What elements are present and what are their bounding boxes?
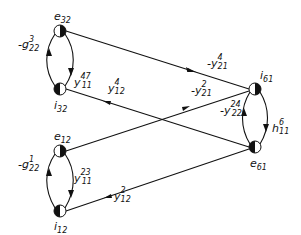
gain-y11-47: y4711 xyxy=(73,72,92,90)
label-i32: i32 xyxy=(54,99,67,114)
loop-i61-e61 xyxy=(241,92,269,144)
gain-g22-3: -g322 xyxy=(18,35,39,53)
gain-y12-2: y212 xyxy=(113,186,131,204)
label-i61: i61 xyxy=(260,69,273,84)
gain-y11-23: y2311 xyxy=(73,168,92,186)
label-e32: e32 xyxy=(54,10,71,25)
node-e32 xyxy=(54,25,66,37)
gain-y12-4: y412 xyxy=(107,78,125,96)
node-i12 xyxy=(54,205,66,217)
branch-e12-i61 xyxy=(66,91,249,151)
label-e12: e12 xyxy=(54,130,71,145)
gain-y21-2: -y221 xyxy=(191,80,212,98)
branch-e61-i12 xyxy=(66,149,249,211)
signal-flow-graph: e32 i32 e12 i12 i61 e61 -g322 y4711 y412… xyxy=(0,0,301,235)
gain-g22-1: -g122 xyxy=(18,155,39,173)
label-e61: e61 xyxy=(250,157,267,172)
gain-y21-4: -y421 xyxy=(207,53,228,71)
branch-e61-i32 xyxy=(66,89,249,147)
loop-e12-i12 xyxy=(46,154,74,208)
label-i12: i12 xyxy=(54,220,67,235)
gain-y22-24: -y2422 xyxy=(220,100,242,118)
node-e12 xyxy=(54,145,66,157)
node-e61 xyxy=(249,141,261,153)
node-i32 xyxy=(54,83,66,95)
node-i61 xyxy=(249,83,261,95)
gain-h11-6: h611 xyxy=(272,118,289,136)
loop-e32-i32 xyxy=(46,34,74,86)
